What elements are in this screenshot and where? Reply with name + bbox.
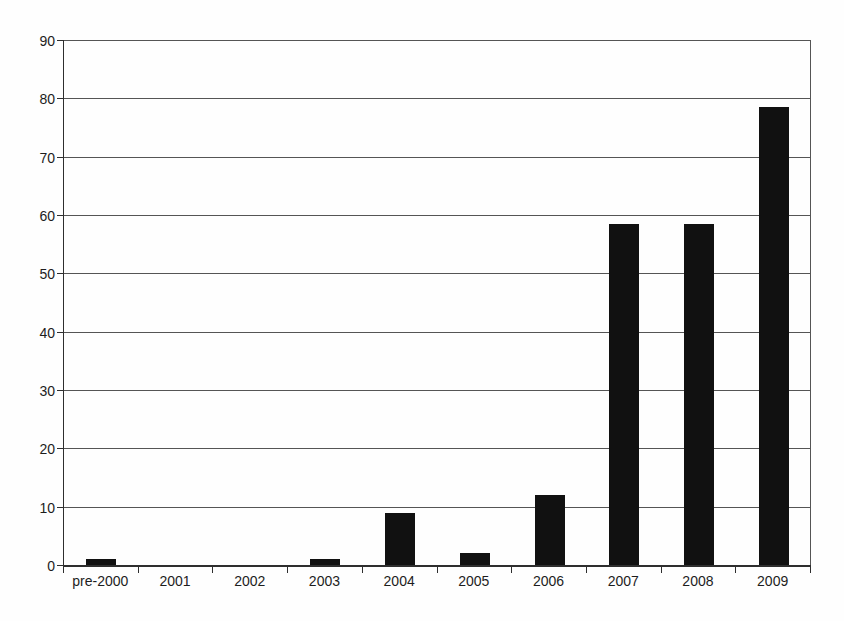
bar-2008 bbox=[684, 224, 714, 565]
y-axis-label-30: 30 bbox=[15, 384, 55, 398]
bar-2007 bbox=[609, 224, 639, 565]
x-axis-label-pre-2000: pre-2000 bbox=[63, 573, 138, 589]
y-axis-label-10: 10 bbox=[15, 501, 55, 515]
y-axis-tick-50 bbox=[57, 273, 63, 274]
y-axis-label-60: 60 bbox=[15, 209, 55, 223]
y-axis-label-70: 70 bbox=[15, 151, 55, 165]
bar-2005 bbox=[460, 553, 490, 565]
y-axis-label-40: 40 bbox=[15, 326, 55, 340]
x-axis-label-2003: 2003 bbox=[287, 573, 362, 589]
x-axis-label-2004: 2004 bbox=[362, 573, 437, 589]
x-axis-tick-10 bbox=[810, 567, 811, 573]
y-axis-label-50: 50 bbox=[15, 267, 55, 281]
bar-2003 bbox=[310, 559, 340, 565]
y-axis-tick-10 bbox=[57, 507, 63, 508]
bar-2006 bbox=[535, 495, 565, 565]
gridline-y-90 bbox=[64, 40, 811, 41]
y-axis-tick-70 bbox=[57, 157, 63, 158]
plot-area bbox=[63, 40, 811, 567]
x-axis-label-2005: 2005 bbox=[437, 573, 512, 589]
bar-chart: 0102030405060708090pre-20002001200220032… bbox=[0, 0, 844, 621]
y-axis-label-20: 20 bbox=[15, 442, 55, 456]
y-axis-tick-20 bbox=[57, 448, 63, 449]
gridline-y-70 bbox=[64, 157, 811, 158]
gridline-y-60 bbox=[64, 215, 811, 216]
y-axis-tick-80 bbox=[57, 98, 63, 99]
plot-right-border bbox=[810, 40, 811, 565]
y-axis-label-0: 0 bbox=[15, 559, 55, 573]
y-axis-tick-0 bbox=[57, 565, 63, 566]
y-axis-tick-30 bbox=[57, 390, 63, 391]
gridline-y-80 bbox=[64, 98, 811, 99]
y-axis-tick-40 bbox=[57, 332, 63, 333]
x-axis-label-2009: 2009 bbox=[735, 573, 810, 589]
bar-2004 bbox=[385, 513, 415, 566]
bar-2009 bbox=[759, 107, 789, 565]
x-axis-label-2002: 2002 bbox=[212, 573, 287, 589]
y-axis-tick-60 bbox=[57, 215, 63, 216]
bar-pre-2000 bbox=[86, 559, 116, 565]
y-axis-label-90: 90 bbox=[15, 34, 55, 48]
x-axis-label-2008: 2008 bbox=[661, 573, 736, 589]
y-axis-tick-90 bbox=[57, 40, 63, 41]
x-axis-label-2007: 2007 bbox=[586, 573, 661, 589]
x-axis-label-2006: 2006 bbox=[511, 573, 586, 589]
y-axis-label-80: 80 bbox=[15, 92, 55, 106]
x-axis-label-2001: 2001 bbox=[138, 573, 213, 589]
